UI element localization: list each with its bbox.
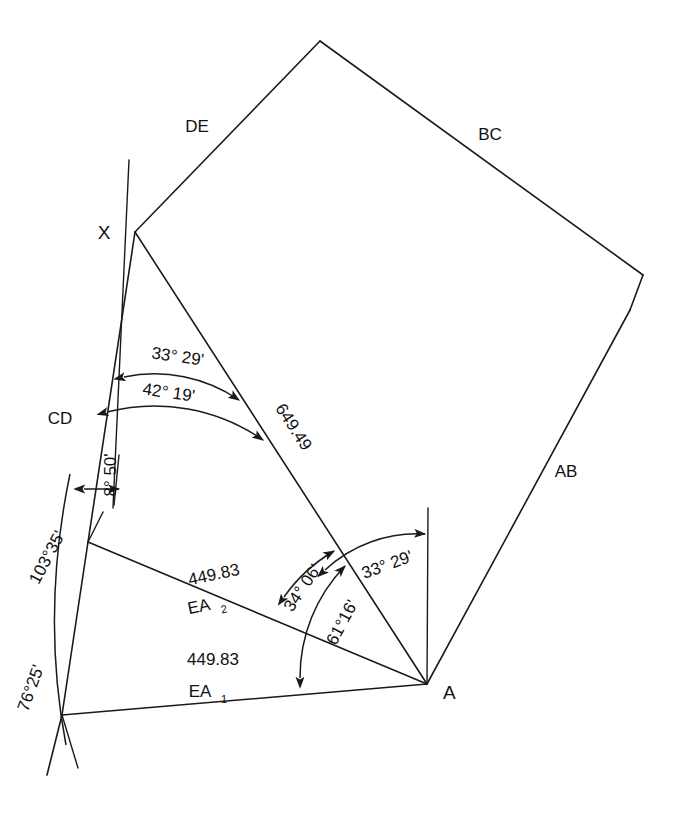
angle-arc-x-lower bbox=[107, 406, 263, 440]
angle-label-e2: 103°35' bbox=[25, 528, 69, 588]
point-label-a: A bbox=[443, 682, 456, 703]
side-label-ab: AB bbox=[555, 462, 578, 481]
side-label-de: DE bbox=[185, 117, 209, 136]
stub-e1-bearing bbox=[62, 715, 78, 768]
distance-label-e1a: 449.83 bbox=[187, 650, 239, 669]
meridian-line-at-a bbox=[427, 508, 428, 684]
boundary-edge-ab bbox=[427, 310, 630, 684]
survey-diagram-svg: X A DE BC AB CD 649.49 449.83 449.83 EA … bbox=[0, 0, 684, 823]
distance-label-e2a: 449.83 bbox=[186, 560, 241, 589]
line-e1-to-a bbox=[62, 684, 427, 715]
side-label-bc: BC bbox=[478, 125, 502, 144]
boundary-edge-bc bbox=[320, 41, 643, 275]
side-label-cd: CD bbox=[48, 409, 73, 428]
distance-label-xa: 649.49 bbox=[271, 400, 315, 454]
leg-label-ea1-group: EA 1 bbox=[189, 682, 227, 705]
angle-label-a-mid: 61°16' bbox=[323, 597, 362, 648]
leg-label-ea1-subscript: 1 bbox=[221, 693, 227, 705]
boundary-edge-corner bbox=[630, 275, 643, 310]
leg-label-ea1: EA bbox=[189, 682, 212, 701]
line-x-to-a bbox=[135, 232, 427, 684]
leg-label-ea2-group: EA 2 bbox=[186, 592, 228, 622]
angle-label-e1: 76°25' bbox=[14, 662, 48, 713]
meridian-curve-left bbox=[54, 474, 70, 745]
angle-label-x-lower: 42° 19' bbox=[141, 379, 196, 405]
angle-label-x-deflection: 8° 50' bbox=[101, 453, 120, 496]
traverse-interior-group bbox=[47, 232, 427, 775]
line-cd-e2-to-e1 bbox=[47, 542, 88, 775]
point-label-x: X bbox=[98, 222, 111, 243]
angle-label-a-outer: 34° 06' bbox=[280, 561, 325, 615]
leg-label-ea2-subscript: 2 bbox=[220, 602, 228, 615]
leg-label-ea2: EA bbox=[186, 595, 213, 618]
survey-diagram-canvas: X A DE BC AB CD 649.49 449.83 449.83 EA … bbox=[0, 0, 684, 823]
meridian-reference-group bbox=[113, 160, 428, 684]
traverse-boundary-group bbox=[135, 41, 643, 684]
angle-label-a-inner: 33° 29' bbox=[359, 547, 415, 583]
angle-label-x-upper: 33° 29' bbox=[150, 343, 205, 369]
boundary-edge-de bbox=[135, 41, 320, 232]
